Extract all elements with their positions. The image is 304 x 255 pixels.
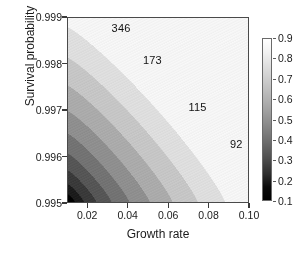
colorbar: 0.90.80.70.60.50.40.30.20.1 — [262, 38, 272, 201]
colorbar-tick — [273, 79, 276, 80]
x-axis-tick-label: 0.10 — [239, 210, 259, 221]
contour-label: 115 — [188, 102, 206, 113]
contour-label: 92 — [230, 139, 243, 150]
colorbar-tick-label: 0.9 — [278, 33, 293, 44]
colorbar-tick — [273, 140, 276, 141]
colorbar-tick-label: 0.3 — [278, 155, 293, 166]
y-axis-tick-label: 0.998 — [36, 59, 62, 70]
y-axis-tick-label: 0.997 — [36, 105, 62, 116]
plot-area — [67, 17, 249, 203]
colorbar-gradient — [262, 38, 272, 201]
x-axis-tick — [208, 203, 209, 208]
contour-label: 346 — [112, 23, 131, 34]
y-axis-tick — [62, 156, 67, 157]
x-axis-tick — [87, 203, 88, 208]
contour-surface — [68, 18, 248, 202]
y-axis-tick-label: 0.995 — [36, 198, 62, 209]
contour-label: 173 — [143, 55, 162, 66]
contour-plot-figure: 34617311592 0.9950.9960.9970.9980.9990.0… — [0, 0, 304, 255]
x-axis-tick — [168, 203, 169, 208]
x-axis-title: Growth rate — [67, 228, 249, 240]
colorbar-tick — [273, 120, 276, 121]
colorbar-tick — [273, 201, 276, 202]
x-axis-tick-label: 0.08 — [198, 210, 218, 221]
y-axis-tick-label: 0.996 — [36, 152, 62, 163]
x-axis-tick — [127, 203, 128, 208]
y-axis-title: Survival probability — [24, 0, 36, 149]
x-axis-tick-label: 0.06 — [158, 210, 178, 221]
colorbar-tick-label: 0.8 — [278, 53, 293, 64]
colorbar-tick — [273, 58, 276, 59]
colorbar-tick-label: 0.5 — [278, 114, 293, 125]
colorbar-tick-label: 0.6 — [278, 94, 293, 105]
colorbar-tick-label: 0.2 — [278, 175, 293, 186]
x-axis-tick-label: 0.02 — [77, 210, 97, 221]
colorbar-tick — [273, 99, 276, 100]
x-axis-tick — [248, 203, 249, 208]
x-axis-tick-label: 0.04 — [117, 210, 137, 221]
colorbar-tick — [273, 160, 276, 161]
y-axis-tick — [62, 63, 67, 64]
y-axis-tick — [62, 202, 67, 203]
y-axis-tick — [62, 109, 67, 110]
colorbar-tick — [273, 181, 276, 182]
colorbar-tick-label: 0.1 — [278, 196, 293, 207]
y-axis-tick-label: 0.999 — [36, 12, 62, 23]
colorbar-tick-label: 0.4 — [278, 135, 293, 146]
y-axis-tick — [62, 16, 67, 17]
colorbar-tick-label: 0.7 — [278, 74, 293, 85]
colorbar-tick — [273, 38, 276, 39]
